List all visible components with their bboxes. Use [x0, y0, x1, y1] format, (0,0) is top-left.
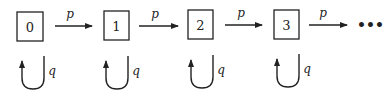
continuation-ellipsis: •••: [357, 17, 384, 33]
transition-2-3: p: [225, 6, 262, 25]
transition-label: p: [66, 7, 74, 21]
loop-label: q: [303, 62, 311, 76]
self-loop-2: q: [191, 55, 225, 88]
state-label: 3: [282, 18, 290, 33]
state-0: 0: [17, 12, 43, 41]
loop-arrow-icon: [277, 54, 299, 87]
loop-label: q: [132, 64, 140, 78]
transition-label: p: [237, 6, 245, 20]
markov-chain-diagram: 0 1 2 3 p p p p ••• q q q: [0, 0, 392, 96]
loop-label: q: [217, 63, 225, 77]
transition-label: p: [151, 7, 159, 21]
state-label: 1: [112, 19, 120, 34]
loop-arrow-icon: [22, 56, 44, 89]
state-label: 2: [196, 18, 204, 33]
loop-arrow-icon: [106, 56, 128, 89]
transition-1-2: p: [139, 7, 178, 26]
loop-arrow-icon: [191, 55, 213, 88]
transition-0-1: p: [55, 7, 92, 26]
state-2: 2: [188, 10, 213, 39]
self-loop-1: q: [106, 56, 140, 89]
transition-3-next: p: [309, 6, 347, 25]
transition-label: p: [319, 6, 327, 20]
state-1: 1: [104, 11, 129, 40]
self-loop-3: q: [277, 54, 311, 87]
loop-label: q: [48, 64, 56, 78]
self-loop-0: q: [22, 56, 56, 89]
state-3: 3: [274, 10, 299, 39]
state-label: 0: [26, 20, 34, 35]
